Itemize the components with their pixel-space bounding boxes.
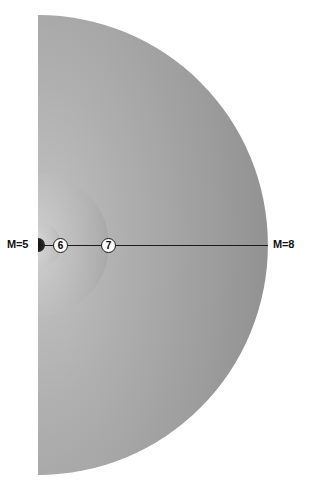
magnitude-semicircle-figure [0, 0, 313, 488]
node-marker-7: 7 [101, 238, 116, 253]
node-marker-6: 6 [53, 238, 68, 253]
axis-label-m5: M=5 [7, 239, 28, 250]
axis-label-m8: M=8 [273, 239, 294, 250]
